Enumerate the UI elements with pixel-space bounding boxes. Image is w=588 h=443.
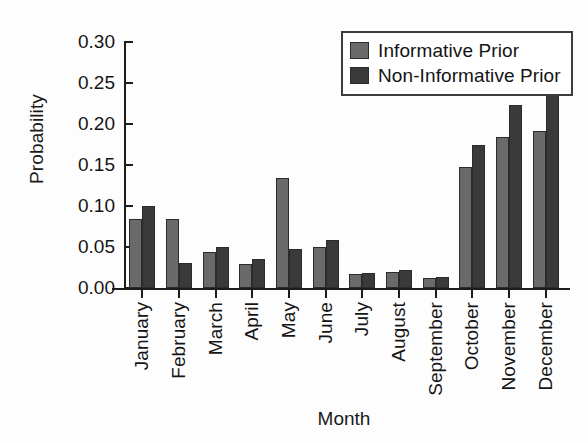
legend-swatch-non-informative-prior [350,67,369,84]
y-tick-label: 0.00 [78,277,115,299]
x-tick-mark [361,290,363,298]
x-tick-label: June [315,302,337,344]
x-axis-title: Month [124,408,564,430]
x-tick-mark [398,290,400,298]
y-tick-label: 0.30 [78,31,115,53]
x-tick-mark [545,290,547,298]
x-tick: June [307,290,344,410]
x-tick: December [527,290,564,410]
bar-group [271,42,308,288]
x-tick-label: July [351,302,373,336]
x-tick: August [381,290,418,410]
bar-group [307,42,344,288]
legend-swatch-informative-prior [350,42,369,59]
x-tick-mark [251,290,253,298]
bar [509,105,522,288]
x-tick-label: December [535,302,557,390]
y-tick: 0.05 [78,236,124,258]
x-tick-mark [508,290,510,298]
bar [129,219,142,288]
bar-group [197,42,234,288]
bar [423,278,436,288]
y-tick-label: 0.20 [78,113,115,135]
bar [313,247,326,288]
x-tick-mark [325,290,327,298]
bar [362,273,375,288]
legend-label-informative-prior: Informative Prior [378,40,519,62]
bar [216,247,229,288]
bar [289,249,302,288]
x-tick-mark [471,290,473,298]
legend-entry: Informative Prior [350,38,561,63]
x-tick: April [234,290,271,410]
y-tick: 0.30 [78,31,124,53]
x-tick-label: January [131,302,153,370]
bar [399,270,412,288]
bar [349,274,362,288]
bar [239,264,252,288]
y-tick-label: 0.05 [78,236,115,258]
chart-legend: Informative Prior Non-Informative Prior [341,31,573,96]
bar [496,137,509,288]
bar-group [124,42,161,288]
y-tick: 0.25 [78,72,124,94]
bar [203,252,216,288]
x-tick-label: August [388,302,410,362]
x-tick-label: September [425,302,447,396]
y-axis-title: Probability [26,69,48,209]
bar [326,240,339,288]
y-tick-label: 0.25 [78,72,115,94]
y-tick: 0.10 [78,195,124,217]
x-tick: March [197,290,234,410]
x-tick-mark [141,290,143,298]
bar-group [161,42,198,288]
y-tick: 0.20 [78,113,124,135]
x-tick-label: March [205,302,227,355]
x-tick-label: April [241,302,263,341]
x-tick: October [454,290,491,410]
bar [276,178,289,288]
x-tick: September [417,290,454,410]
y-tick-label: 0.10 [78,195,115,217]
bar [179,263,192,288]
y-tick-label: 0.15 [78,154,115,176]
x-axis-ticks: JanuaryFebruaryMarchAprilMayJuneJulyAugu… [124,290,564,410]
x-tick: January [124,290,161,410]
x-tick-mark [288,290,290,298]
x-tick-mark [215,290,217,298]
bar-chart-figure: Probability 0.300.250.200.150.100.050.00… [0,0,588,443]
x-tick-label: February [168,302,190,379]
legend-entry: Non-Informative Prior [350,63,561,88]
x-tick-mark [178,290,180,298]
bar [386,272,399,288]
bar [533,131,546,288]
bar [142,206,155,288]
bar [459,167,472,288]
bar [436,277,449,288]
bar [252,259,265,288]
legend-label-non-informative-prior: Non-Informative Prior [378,65,561,87]
x-tick: November [491,290,528,410]
y-tick: 0.00 [78,277,124,299]
x-tick-label: October [461,302,483,370]
bar-group [234,42,271,288]
bar [472,145,485,289]
x-tick-mark [435,290,437,298]
bar [166,219,179,288]
x-tick: February [161,290,198,410]
x-tick: July [344,290,381,410]
bar [546,95,559,288]
x-tick-label: November [498,302,520,390]
x-tick-label: May [278,302,300,338]
y-tick: 0.15 [78,154,124,176]
x-tick: May [271,290,308,410]
